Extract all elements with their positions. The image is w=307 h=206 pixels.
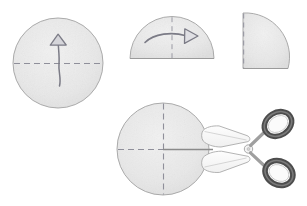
panel-4-circle-with-scissors [117,103,297,195]
scissors-upper-handle-ring [260,107,297,142]
scissors-lower-handle-ring [261,156,298,190]
scissors-lower-shank [251,153,264,165]
scissors [202,107,298,191]
panel-3-quarter-circle [243,13,290,69]
scissors-upper-shank [251,133,264,146]
scissors-upper-blade [202,126,250,147]
illustration-canvas: Paper Folding and Cutting Diagram Full c… [0,0,307,206]
paper-quarter-circle-3-grain [243,13,290,69]
paper-folding-diagram [0,0,307,206]
scissors-lower-blade [202,151,250,172]
panel-2-semicircle-with-fold-arrow [130,17,214,59]
scissors-pivot-screw-inner [247,148,250,151]
panel-1-circle-with-fold-arrow [13,18,103,108]
